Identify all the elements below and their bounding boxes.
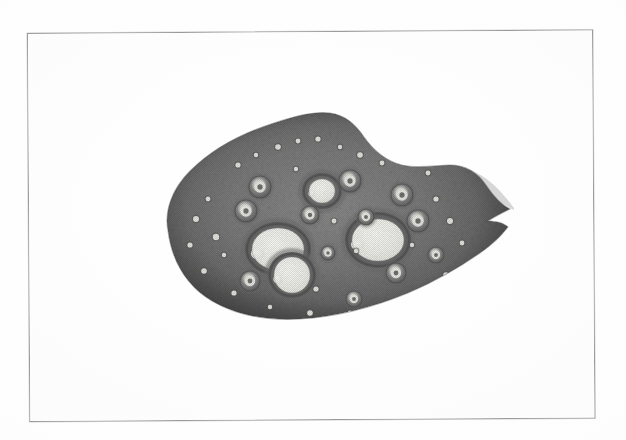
micrograph-specimen (150, 103, 514, 331)
micrograph-svg (150, 103, 514, 331)
primordial-follicle-19 (419, 290, 426, 297)
scanned-page (0, 0, 626, 440)
